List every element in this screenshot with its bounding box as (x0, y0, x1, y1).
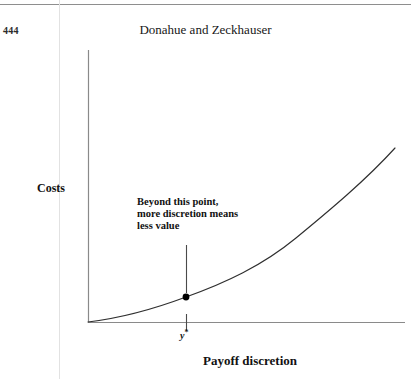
annotation-line-2: more discretion means (137, 208, 238, 220)
figure-page: 444 Donahue and Zeckhauser Costs Payoff … (0, 0, 411, 379)
curve-annotation: Beyond this point, more discretion means… (137, 196, 238, 233)
annotation-line-3: less value (137, 220, 238, 232)
cost-curve (88, 148, 395, 322)
x-axis-label: Payoff discretion (140, 353, 360, 369)
cost-discretion-figure: Costs Payoff discretion y* Beyond this p… (0, 0, 411, 379)
annotation-line-1: Beyond this point, (137, 196, 238, 208)
x-tick-label-threshold: y* (180, 330, 188, 341)
y-axis-label: Costs (20, 181, 82, 196)
tick-label-superscript: * (184, 328, 188, 337)
threshold-point-marker (183, 294, 190, 301)
